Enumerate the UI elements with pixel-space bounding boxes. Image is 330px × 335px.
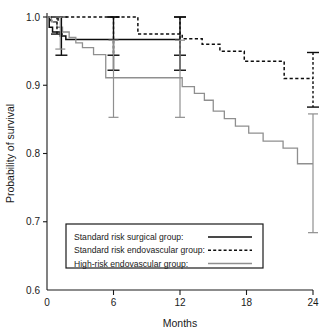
legend-entries: Standard risk surgical group:Standard ri…: [74, 232, 252, 269]
kaplan-meier-plot: 0.60.70.80.91.0 06121824 Probability of …: [0, 0, 330, 335]
error-bar: [109, 40, 119, 117]
y-tick-label: 0.9: [26, 80, 40, 91]
y-tick-label: 0.7: [26, 216, 40, 227]
survival-chart-figure: 0.60.70.80.91.0 06121824 Probability of …: [0, 0, 330, 335]
y-tick-label: 0.6: [26, 285, 40, 296]
confidence-interval-error-bars: [51, 17, 319, 233]
y-tick-label: 0.8: [26, 148, 40, 159]
error-bar: [308, 114, 318, 233]
legend-label: Standard risk surgical group:: [74, 232, 183, 242]
x-tick-labels: 06121824: [44, 297, 319, 308]
x-tick-label: 0: [44, 297, 50, 308]
y-axis-title: Probability of survival: [4, 104, 16, 203]
y-tick-marks: [43, 17, 47, 222]
x-tick-marks: [114, 290, 314, 295]
x-tick-label: 18: [241, 297, 253, 308]
error-bar: [307, 52, 319, 107]
legend-label: High-risk endovascular group:: [74, 259, 188, 269]
x-tick-label: 24: [307, 297, 319, 308]
chart-legend: Standard risk surgical group:Standard ri…: [66, 224, 263, 269]
x-tick-label: 12: [174, 297, 186, 308]
y-tick-label: 1.0: [26, 12, 40, 23]
error-bar: [175, 40, 185, 117]
y-tick-labels: 0.60.70.80.91.0: [26, 12, 40, 296]
x-axis-title: Months: [163, 317, 197, 329]
legend-label: Standard risk endovascular group:: [74, 245, 205, 255]
x-tick-label: 6: [111, 297, 117, 308]
